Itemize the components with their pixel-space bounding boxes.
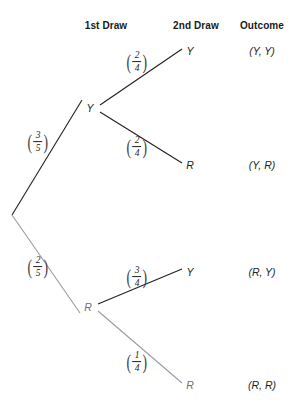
outcome-yr: (Y, R): [249, 159, 275, 171]
paren-close-icon: ): [44, 256, 49, 278]
fraction-numerator: 3: [134, 265, 141, 276]
tree-branches: [0, 0, 304, 410]
paren-open-icon: (: [127, 136, 132, 158]
fraction-numerator: 2: [134, 135, 141, 146]
fraction-numerator: 2: [35, 255, 42, 266]
fraction-numerator: 2: [134, 50, 141, 61]
outcome-ry: (R, Y): [248, 266, 275, 278]
outcome-yy: (Y, Y): [249, 45, 275, 57]
branch-root-to-first-y: [12, 100, 82, 215]
node-second-draw-ry: Y: [186, 266, 193, 278]
fraction-denominator: 4: [134, 148, 141, 159]
column-header-outcome: Outcome: [240, 20, 284, 31]
fraction-denominator: 4: [134, 363, 141, 374]
node-second-draw-rr: R: [186, 379, 194, 391]
probability-first-r-to-r: ( 1 4 ): [125, 350, 149, 374]
fraction-denominator: 5: [35, 268, 42, 279]
paren-open-icon: (: [127, 351, 132, 373]
node-second-draw-yy: Y: [186, 45, 193, 57]
paren-open-icon: (: [28, 256, 33, 278]
probability-root-to-first-r: ( 2 5 ): [26, 255, 50, 279]
paren-close-icon: ): [143, 266, 148, 288]
probability-root-to-first-y: ( 3 5 ): [26, 130, 50, 154]
paren-open-icon: (: [28, 131, 33, 153]
paren-close-icon: ): [44, 131, 49, 153]
fraction-denominator: 4: [134, 63, 141, 74]
paren-open-icon: (: [127, 51, 132, 73]
probability-first-r-to-y: ( 3 4 ): [125, 265, 149, 289]
node-first-draw-y: Y: [86, 102, 93, 114]
column-header-second-draw: 2nd Draw: [173, 20, 219, 31]
probability-first-y-to-y: ( 2 4 ): [125, 50, 149, 74]
paren-close-icon: ): [143, 136, 148, 158]
fraction-numerator: 3: [35, 130, 42, 141]
fraction-denominator: 5: [35, 143, 42, 154]
fraction-denominator: 4: [134, 278, 141, 289]
probability-first-y-to-r: ( 2 4 ): [125, 135, 149, 159]
node-first-draw-r: R: [84, 301, 92, 313]
paren-open-icon: (: [127, 266, 132, 288]
column-header-first-draw: 1st Draw: [85, 20, 128, 31]
paren-close-icon: ): [143, 351, 148, 373]
node-second-draw-yr: R: [186, 159, 194, 171]
outcome-rr: (R, R): [248, 379, 276, 391]
paren-close-icon: ): [143, 51, 148, 73]
fraction-numerator: 1: [134, 350, 141, 361]
